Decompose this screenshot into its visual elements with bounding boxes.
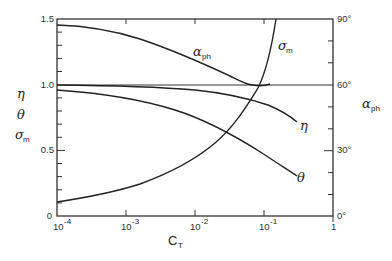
svg-text:10: 10 (259, 221, 270, 232)
curve-sigma-m (57, 19, 276, 202)
right-tick-60: 60° (337, 79, 352, 90)
left-tick-0.5: 0.5 (41, 144, 54, 155)
left-tick-1.0: 1.0 (41, 79, 54, 90)
label-alpha-ph: α (193, 44, 202, 59)
x-tick-1: 1 (331, 221, 336, 232)
svg-text:-4: -4 (64, 217, 72, 226)
left-axis-title-theta: θ (17, 107, 25, 122)
right-axis-title-alpha: α (362, 96, 371, 111)
left-tick-1.5: 1.5 (41, 13, 54, 24)
right-tick-30: 30° (337, 144, 352, 155)
chart: α ph σ m η θ 1.5 1.0 0.5 0 90° 60° 30° 0… (0, 0, 392, 261)
x-tick-1e-1: 10 -1 (259, 217, 278, 232)
label-eta: η (300, 118, 308, 133)
right-tick-0: 0° (337, 210, 346, 221)
label-alpha-ph-sub: ph (202, 52, 211, 61)
svg-text:10: 10 (190, 221, 201, 232)
x-tick-1e-4: 10 -4 (53, 217, 72, 232)
curve-eta (57, 85, 297, 122)
left-axis-title-sigma-sub: m (23, 135, 30, 144)
right-axis-ticks (324, 41, 333, 195)
svg-text:10: 10 (121, 221, 132, 232)
left-tick-0: 0 (47, 210, 52, 221)
svg-text:1: 1 (331, 221, 336, 232)
svg-text:-2: -2 (201, 217, 209, 226)
x-tick-1e-2: 10 -2 (190, 217, 209, 232)
svg-text:-1: -1 (270, 217, 278, 226)
right-axis-title-alpha-sub: ph (371, 104, 380, 113)
curve-alpha-ph (57, 25, 270, 86)
x-axis-title: C (168, 233, 177, 248)
label-sigma-m-sub: m (286, 46, 293, 55)
x-tick-1e-3: 10 -3 (121, 217, 140, 232)
left-axis-ticks (57, 32, 65, 203)
svg-text:-3: -3 (132, 217, 140, 226)
left-axis-title-eta: η (17, 86, 25, 101)
x-axis-title-sub: T (178, 241, 183, 250)
label-theta: θ (297, 170, 305, 185)
svg-text:10: 10 (53, 221, 64, 232)
right-tick-90: 90° (337, 13, 352, 24)
